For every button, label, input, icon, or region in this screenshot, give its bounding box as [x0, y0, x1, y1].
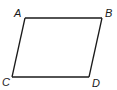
vertex-label-c: C [2, 76, 10, 88]
edge-CA [12, 18, 25, 77]
parallelogram-diagram: A B C D [0, 0, 117, 90]
vertex-label-d: D [92, 77, 100, 89]
edge-BD [89, 18, 102, 77]
vertex-label-a: A [13, 7, 21, 19]
vertex-label-b: B [105, 7, 112, 19]
